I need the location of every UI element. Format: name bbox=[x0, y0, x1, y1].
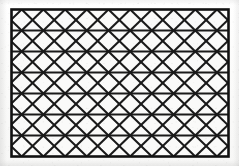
triangular-lattice-drawing bbox=[0, 0, 239, 166]
figure-root bbox=[0, 0, 239, 166]
